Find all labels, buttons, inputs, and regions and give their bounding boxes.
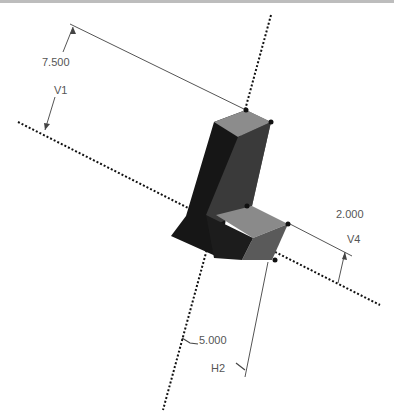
v1-name-label: V1 [54, 84, 67, 96]
v1-value-label[interactable]: 7.500 [42, 56, 70, 68]
v4-name-label: V4 [347, 233, 360, 245]
h2-name-label: H2 [211, 362, 225, 374]
v1-arrow-bottom-icon [44, 123, 50, 130]
v1-arrow-top-icon [70, 27, 76, 34]
vertex-handle[interactable] [269, 120, 274, 125]
v4-value-label[interactable]: 2.000 [336, 208, 364, 220]
v4-extension-line [290, 224, 352, 256]
h2-leader-icon [236, 363, 245, 370]
vertex-handle[interactable] [245, 204, 250, 209]
h2-extension-line [245, 262, 268, 377]
l-shaped-solid[interactable] [171, 108, 291, 263]
h2-value-label[interactable]: 5.000 [199, 334, 227, 346]
vertex-handle[interactable] [244, 108, 249, 113]
dim-5000-leader-icon [182, 338, 198, 344]
vertex-handle[interactable] [273, 258, 278, 263]
v1-extension-line [70, 24, 246, 110]
3d-sketch-viewport[interactable]: 7.500 V1 2.000 V4 5.000 H2 [0, 0, 394, 420]
vertex-handle[interactable] [286, 222, 291, 227]
